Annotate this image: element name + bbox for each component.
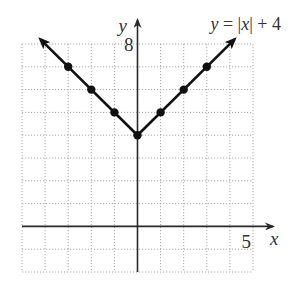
- x-axis-label: x: [269, 228, 279, 249]
- equation-label: y = |x| + 4: [208, 14, 281, 34]
- equation-eq: = |: [218, 14, 241, 34]
- data-point: [87, 85, 95, 93]
- data-point: [203, 63, 211, 71]
- x-tick-label: 5: [242, 231, 252, 252]
- data-point: [180, 85, 188, 93]
- y-tick-label: 8: [124, 34, 134, 55]
- equation-lhs: y: [208, 14, 218, 34]
- data-point: [64, 63, 72, 71]
- equation-var: x: [240, 14, 249, 34]
- data-point: [156, 108, 164, 116]
- equation-rhs: | + 4: [249, 14, 281, 34]
- y-axis-label: y: [117, 15, 128, 36]
- data-point: [110, 108, 118, 116]
- chart: y x 8 5 y = |x| + 4: [0, 0, 300, 281]
- data-point: [133, 131, 141, 139]
